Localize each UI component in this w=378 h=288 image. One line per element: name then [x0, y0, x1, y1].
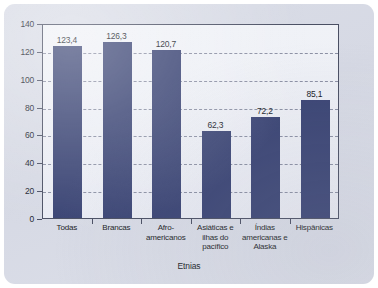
x-axis-category-label-line: Alaska [235, 242, 295, 252]
gridline [43, 164, 338, 165]
bar-value-label: 120,7 [141, 39, 191, 49]
bar-value-label: 123,4 [42, 35, 92, 45]
y-axis-tick [37, 80, 42, 81]
y-axis-tick-label: 140 [8, 19, 34, 29]
y-axis-tick [37, 135, 42, 136]
gridline [43, 109, 338, 110]
y-axis-tick-label: 40 [8, 158, 34, 168]
x-axis-category-label-line: Hispânicas [284, 223, 344, 233]
y-axis-tick [37, 108, 42, 109]
y-axis-tick-label: 20 [8, 186, 34, 196]
bar [152, 50, 181, 218]
gridline [43, 53, 338, 54]
gridline [43, 136, 338, 137]
gridline [43, 81, 338, 82]
y-axis-tick [37, 163, 42, 164]
y-axis-tick [37, 191, 42, 192]
bar-value-label: 62,3 [190, 120, 240, 130]
y-axis-tick-label: 100 [8, 75, 34, 85]
gridline [43, 192, 338, 193]
x-axis-category-label-line: americanas e [235, 233, 295, 243]
bar-value-label: 85,1 [289, 89, 339, 99]
x-axis-title: Etnias [4, 261, 374, 271]
y-axis-tick [37, 24, 42, 25]
bar-value-label: 126,3 [91, 31, 141, 41]
x-axis-category-label: Hispânicas [284, 223, 344, 233]
y-axis-tick-label: 0 [8, 214, 34, 224]
figure-card: 020406080100120140 TodasBrancasAfro-amer… [4, 4, 374, 284]
y-axis-tick [37, 219, 42, 220]
y-axis-tick-label: 80 [8, 103, 34, 113]
bar [53, 46, 82, 218]
y-axis-tick-label: 120 [8, 47, 34, 57]
bar [301, 100, 330, 219]
bar-value-label: 72,2 [240, 106, 290, 116]
bar [103, 42, 132, 218]
bar [202, 131, 231, 218]
y-axis-tick [37, 52, 42, 53]
y-axis-tick-label: 60 [8, 130, 34, 140]
bar [251, 117, 280, 218]
